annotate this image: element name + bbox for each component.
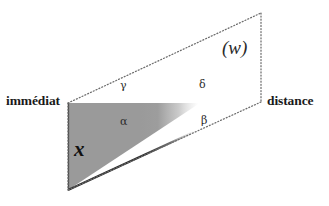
diagram-figure: immédiat distance (w) x γ δ α β bbox=[0, 0, 329, 206]
edge-top-left-diagonal bbox=[68, 13, 261, 103]
label-gamma: γ bbox=[120, 80, 127, 91]
label-immediat: immédiat bbox=[6, 94, 60, 108]
label-w: (w) bbox=[222, 38, 247, 57]
label-distance: distance bbox=[267, 94, 313, 108]
label-delta: δ bbox=[199, 79, 206, 90]
shaded-x-region bbox=[68, 103, 200, 190]
label-beta: β bbox=[201, 115, 207, 126]
label-x: x bbox=[74, 139, 85, 160]
label-alpha: α bbox=[120, 116, 127, 127]
